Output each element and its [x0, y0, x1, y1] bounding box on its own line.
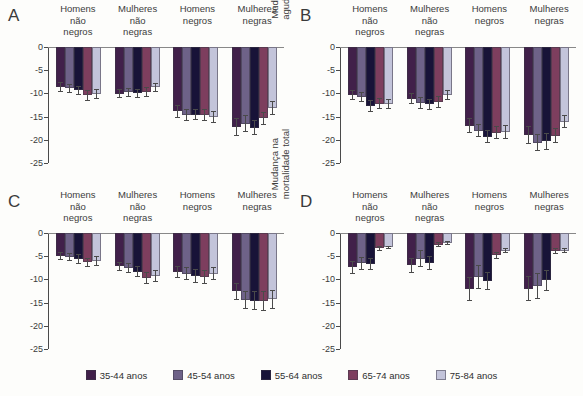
error-bar: [128, 263, 129, 273]
bar-slot: [92, 233, 101, 349]
y-tick: [44, 93, 48, 94]
bar-slot: [483, 47, 492, 163]
error-bar: [177, 266, 178, 278]
group-header-line: não: [108, 15, 168, 27]
y-tick-label: -25: [322, 344, 335, 354]
group-header-line: negras: [400, 212, 460, 224]
bar: [533, 47, 542, 143]
y-tick-label: 0: [330, 42, 335, 52]
bar-slot: [209, 47, 218, 163]
error-bar: [487, 130, 488, 144]
y-tick: [336, 256, 340, 257]
error-bar: [60, 82, 61, 92]
y-tick-label: -25: [30, 158, 43, 168]
group-header-d-1: Mulheresnãonegras: [400, 188, 460, 232]
y-tick: [336, 233, 340, 234]
error-bar: [469, 118, 470, 133]
bar-slot: [191, 233, 200, 349]
legend-swatch-icon: [348, 370, 358, 380]
bar: [209, 47, 218, 117]
bar-slot: [483, 233, 492, 349]
bar-group: [49, 233, 108, 349]
group-header-line: negros: [168, 15, 228, 27]
bar: [416, 47, 425, 103]
bar-groups: [49, 47, 284, 163]
bar-slot: [375, 47, 384, 163]
bar-slot: [542, 233, 551, 349]
y-tick: [44, 47, 48, 48]
group-headers-b: HomensnãonegrosMulheresnãonegrasHomensne…: [340, 2, 579, 46]
bar-slot: [115, 47, 124, 163]
bar-slot: [416, 233, 425, 349]
bar-slot: [542, 47, 551, 163]
error-bar: [447, 90, 448, 100]
bar: [259, 47, 268, 118]
error-bar: [254, 291, 255, 310]
group-header-line: Homens: [48, 189, 108, 201]
y-tick-label: -5: [327, 251, 335, 261]
error-bar: [186, 267, 187, 280]
error-bar: [555, 128, 556, 143]
bar: [92, 47, 101, 94]
bar: [524, 47, 533, 135]
y-axis-label-b: Mudança no infartoagudo do miocárdio: [291, 0, 307, 42]
bar-slot: [501, 47, 510, 163]
panel-c: C HomensnãonegrosMulheresnãonegrasHomens…: [0, 186, 291, 368]
bar-group: [459, 47, 518, 163]
group-header-line: negras: [519, 15, 579, 27]
error-bar: [411, 258, 412, 273]
bar-slot: [551, 233, 560, 349]
y-tick: [336, 326, 340, 327]
bar-group: [400, 233, 459, 349]
error-bar: [119, 262, 120, 271]
error-bar: [195, 109, 196, 120]
bar-slot: [348, 47, 357, 163]
bar: [542, 47, 551, 141]
error-bar: [496, 126, 497, 139]
group-header-b-3: Mulheresnegras: [519, 2, 579, 46]
bar: [182, 47, 191, 115]
bar-group: [49, 47, 108, 163]
error-bar: [204, 109, 205, 121]
bar-slot: [92, 47, 101, 163]
bar-slot: [115, 233, 124, 349]
group-header-line: negros: [48, 26, 108, 38]
bar-slot: [443, 47, 452, 163]
bar-group: [341, 47, 400, 163]
bar-slot: [434, 47, 443, 163]
error-bar: [195, 269, 196, 283]
bar-slot: [357, 233, 366, 349]
group-header-line: Homens: [168, 189, 228, 201]
error-bar: [438, 242, 439, 247]
error-bar: [236, 283, 237, 300]
panel-a: A HomensnãonegrosMulheresnãonegrasHomens…: [0, 0, 291, 182]
error-bar: [478, 124, 479, 137]
bar-slot: [259, 233, 268, 349]
bar: [551, 47, 560, 136]
group-header-a-2: Homensnegros: [168, 2, 228, 46]
plot-area-c: 0-5-10-15-20-25: [48, 233, 284, 349]
y-tick-label: -25: [30, 344, 43, 354]
error-bar: [204, 270, 205, 284]
group-header-line: Homens: [460, 3, 520, 15]
bar: [434, 47, 443, 102]
bar-slot: [151, 233, 160, 349]
error-bar: [155, 270, 156, 282]
y-tick: [336, 140, 340, 141]
group-header-c-2: Homensnegros: [168, 188, 228, 232]
error-bar: [155, 83, 156, 92]
group-header-line: negros: [168, 201, 228, 213]
y-tick: [44, 70, 48, 71]
error-bar: [96, 89, 97, 99]
y-tick: [44, 326, 48, 327]
bar-slot: [83, 233, 92, 349]
bar-slot: [416, 47, 425, 163]
y-tick-label: 0: [38, 228, 43, 238]
y-tick: [336, 93, 340, 94]
error-bar: [505, 248, 506, 254]
y-tick: [44, 279, 48, 280]
bar-slot: [124, 47, 133, 163]
y-axis-label-a: Mudança na incidência dedoença coronaria…: [0, 0, 15, 42]
legend-label: 35-44 anos: [100, 370, 148, 381]
bar-slot: [182, 47, 191, 163]
